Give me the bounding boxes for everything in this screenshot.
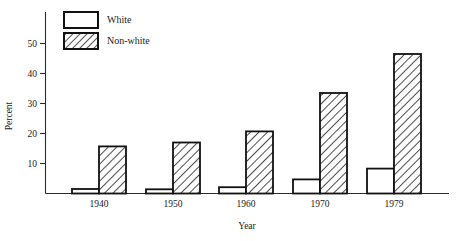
bar-nonwhite-1970: [320, 93, 347, 194]
bar-group-1979: [367, 54, 421, 194]
y-tick-label-20: 20: [28, 129, 38, 139]
legend-label-white: White: [107, 14, 132, 25]
legend-label-nonwhite: Non-white: [107, 35, 150, 46]
y-tick-label-10: 10: [28, 159, 38, 169]
bar-white-1950: [146, 189, 173, 193]
bar-nonwhite-1950: [173, 143, 200, 194]
chart-legend: White Non-white: [64, 12, 150, 49]
bar-white-1960: [219, 187, 246, 193]
axis-x: 1940 1950 1960 1970 1979 Year: [46, 194, 450, 232]
legend-swatch-white: [64, 12, 98, 28]
x-axis-title: Year: [238, 221, 256, 231]
y-tick-label-50: 50: [28, 39, 38, 49]
bar-white-1979: [367, 169, 394, 194]
bar-group-1950: [146, 143, 200, 194]
bar-white-1940: [72, 189, 99, 194]
legend-swatch-nonwhite: [64, 33, 98, 49]
x-tick-label-1960: 1960: [237, 199, 256, 209]
bar-nonwhite-1940: [99, 146, 126, 193]
bar-chart: 10 20 30 40 50 Percent 1940 1950 1960 19…: [0, 0, 458, 241]
bar-group-1970: [293, 93, 347, 194]
x-tick-label-1950: 1950: [164, 199, 183, 209]
y-tick-label-40: 40: [28, 69, 38, 79]
y-tick-label-30: 30: [28, 99, 38, 109]
x-tick-label-1979: 1979: [385, 199, 404, 209]
bar-group-1960: [219, 131, 273, 193]
bar-white-1970: [293, 179, 320, 193]
axis-y: 10 20 30 40 50 Percent: [4, 12, 46, 194]
bar-group-1940: [72, 146, 126, 193]
x-tick-label-1940: 1940: [90, 199, 109, 209]
chart-canvas: 10 20 30 40 50 Percent 1940 1950 1960 19…: [0, 0, 458, 241]
bar-nonwhite-1960: [246, 131, 273, 193]
x-tick-label-1970: 1970: [311, 199, 330, 209]
bar-nonwhite-1979: [394, 54, 421, 194]
y-axis-title: Percent: [4, 101, 14, 130]
